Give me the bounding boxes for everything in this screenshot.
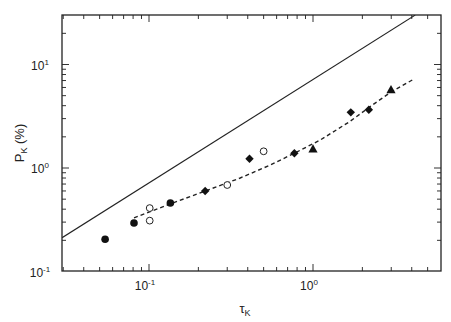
open-circle-marker: [146, 217, 153, 224]
y-tick-label: 100: [31, 161, 49, 176]
open-circle-marker: [146, 205, 153, 212]
y-axis-label-main: P: [12, 154, 27, 163]
y-tick-labels: 10-1100101: [30, 58, 51, 280]
minor-ticks: [62, 15, 441, 271]
filled-circle-marker: [130, 219, 138, 227]
x-axis-label: τK: [239, 301, 250, 318]
solid-reference-line: [62, 15, 415, 238]
major-ticks: [62, 15, 441, 271]
filled-diamond-marker: [290, 149, 298, 157]
filled-circle-marker: [101, 235, 109, 243]
open-circle-marker: [260, 148, 267, 155]
open-circle-marker: [224, 182, 231, 189]
y-tick-label: 101: [31, 58, 49, 73]
filled-diamond-marker: [365, 105, 373, 113]
x-tick-label: 10-1: [135, 278, 156, 293]
filled-diamond-marker: [201, 187, 209, 195]
y-axis-label-suffix: (%): [12, 124, 27, 148]
y-tick-label: 10-1: [30, 265, 51, 280]
filled-circle-marker: [167, 199, 175, 207]
data-markers: [101, 85, 395, 243]
filled-diamond-marker: [347, 108, 355, 116]
x-axis-label-sub: K: [245, 308, 251, 318]
y-axis-label: PK (%): [12, 124, 29, 163]
chart-lines: [62, 15, 415, 238]
x-tick-labels: 10-1100: [135, 278, 319, 293]
plot-frame: [62, 15, 441, 271]
filled-diamond-marker: [245, 154, 253, 162]
chart: 10-1100 10-1100101 τK PK (%): [0, 0, 451, 322]
dashed-fit-curve: [134, 79, 414, 218]
filled-triangle-marker: [386, 85, 395, 93]
x-tick-label: 100: [300, 278, 318, 293]
